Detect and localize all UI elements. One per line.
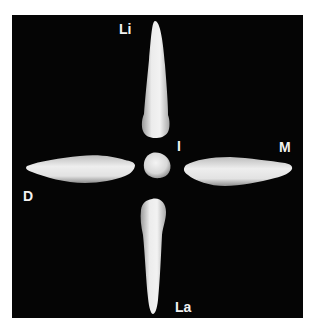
label-lingual: Li: [119, 22, 131, 36]
lingual-view-tooth: [142, 21, 170, 138]
incisal-view-tooth: [144, 153, 171, 179]
label-distal: D: [23, 189, 33, 203]
label-labial: La: [175, 300, 191, 314]
label-incisal: I: [177, 139, 181, 153]
label-mesial: M: [279, 140, 291, 154]
distal-view-tooth: [26, 155, 135, 183]
tooth-views-figure: [0, 0, 317, 335]
mesial-view-tooth: [184, 157, 292, 186]
labial-view-tooth: [141, 199, 166, 314]
